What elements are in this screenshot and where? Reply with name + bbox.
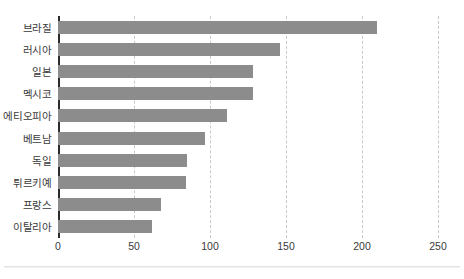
y-axis-category-labels: 브라질 러시아 일본 멕시코 에티오피아 베트남 독일 튀르키예 프랑스 이탈리…	[0, 16, 52, 238]
bar-row	[58, 127, 438, 149]
y-axis-tick-label: 러시아	[0, 38, 52, 60]
bar	[58, 87, 253, 100]
bar-row	[58, 105, 438, 127]
x-axis-value-labels: 050100150200250	[58, 240, 438, 256]
y-axis-tick-label: 베트남	[0, 127, 52, 149]
bar-row	[58, 171, 438, 193]
y-axis-tick-label: 프랑스	[0, 194, 52, 216]
bar-series	[58, 16, 438, 238]
x-axis-tick-label: 150	[277, 240, 295, 252]
bar	[58, 132, 205, 145]
bar-chart: 브라질 러시아 일본 멕시코 에티오피아 베트남 독일 튀르키예 프랑스 이탈리…	[0, 0, 464, 279]
bar	[58, 43, 280, 56]
x-axis-tick-label: 0	[55, 240, 61, 252]
bar	[58, 109, 227, 122]
y-axis-tick-label: 일본	[0, 60, 52, 82]
bar	[58, 198, 161, 211]
bar	[58, 154, 187, 167]
x-axis-tick-label: 100	[201, 240, 219, 252]
gridline	[438, 16, 440, 238]
x-axis-tick-label: 250	[429, 240, 447, 252]
y-axis-tick-label: 독일	[0, 149, 52, 171]
x-axis-tick-label: 50	[128, 240, 140, 252]
y-axis-tick-label: 브라질	[0, 16, 52, 38]
y-axis-tick-label: 멕시코	[0, 83, 52, 105]
bar	[58, 176, 186, 189]
bar-row	[58, 216, 438, 238]
bar-row	[58, 16, 438, 38]
bar	[58, 21, 377, 34]
plot-area	[58, 16, 438, 238]
bar	[58, 220, 152, 233]
bar-row	[58, 194, 438, 216]
bar-row	[58, 38, 438, 60]
bar-row	[58, 83, 438, 105]
x-axis-tick-label: 200	[353, 240, 371, 252]
y-axis-tick-label: 이탈리아	[0, 216, 52, 238]
y-axis-tick-label: 에티오피아	[0, 105, 52, 127]
bar	[58, 65, 253, 78]
bottom-divider	[4, 266, 460, 268]
bar-row	[58, 149, 438, 171]
y-axis-tick-label: 튀르키예	[0, 171, 52, 193]
bar-row	[58, 60, 438, 82]
